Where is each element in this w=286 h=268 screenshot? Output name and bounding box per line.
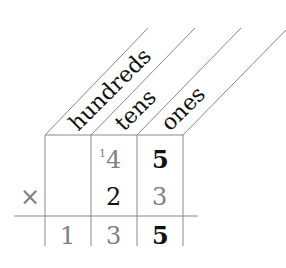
carry-digit: 1 [99,147,106,160]
multiplier-tens-digit: 2 [106,183,121,211]
result-tens-digit: 3 [106,222,121,250]
result-hundreds-digit: 1 [60,222,75,250]
top-tens-digit: 4 [106,146,121,174]
multiply-sign: × [20,183,40,211]
result-ones-digit: 5 [152,221,169,250]
multiplier-ones-digit: 3 [152,183,167,211]
header-ones: ones [156,81,210,135]
place-value-multiplication-diagram: hundreds tens ones 1 4 5 × 2 3 1 3 5 [0,0,286,268]
slant-line-4 [183,30,286,135]
top-ones-digit: 5 [152,145,169,174]
